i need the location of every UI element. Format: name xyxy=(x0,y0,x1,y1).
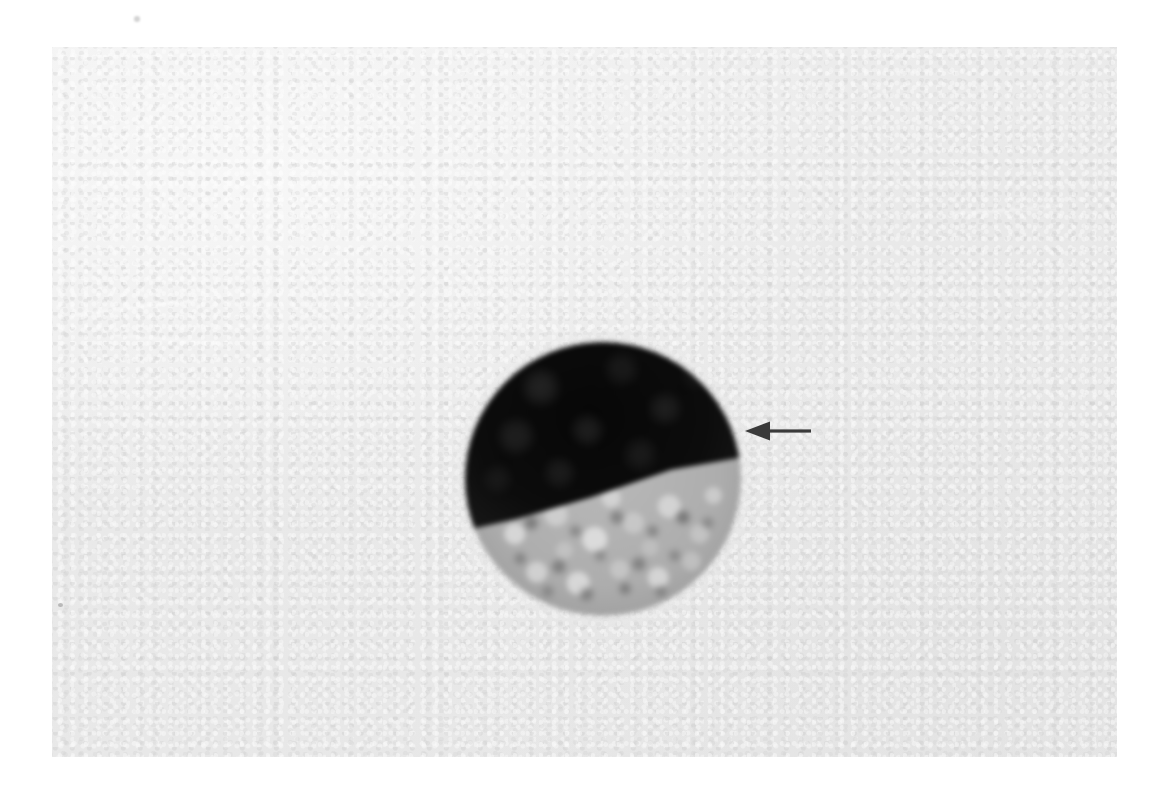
plate-edge-speck xyxy=(58,603,63,607)
figure-root xyxy=(0,0,1157,794)
cell xyxy=(465,342,741,616)
plate-scratch-streak xyxy=(112,334,232,346)
pointer-arrow-icon xyxy=(745,418,811,444)
plate-scratch-streak xyxy=(952,205,1062,215)
margin-speck-artifact xyxy=(134,16,140,22)
plate-scratch-streak xyxy=(72,296,221,316)
photographic-plate xyxy=(52,47,1117,757)
